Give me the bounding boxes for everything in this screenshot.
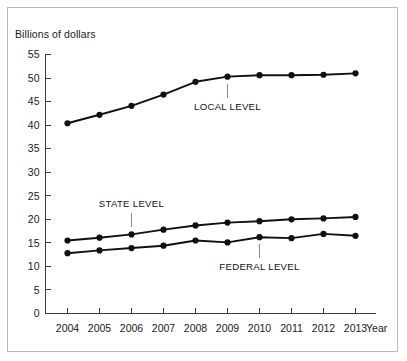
data-point (320, 72, 326, 78)
data-point (64, 237, 70, 243)
x-axis-name: Year (366, 322, 388, 334)
series-federal-level (64, 231, 358, 257)
series-label-federal-level: FEDERAL LEVEL (219, 261, 300, 272)
y-axis-tick-label: 15 (28, 237, 40, 249)
series-state-level (64, 214, 358, 244)
data-point (256, 72, 262, 78)
data-point (128, 103, 134, 109)
data-point (192, 237, 198, 243)
data-point (288, 235, 294, 241)
x-axis-tick-label: 2009 (216, 322, 240, 334)
x-axis-tick-label: 2005 (88, 322, 112, 334)
data-point (256, 234, 262, 240)
y-axis-tick-label: 30 (28, 166, 40, 178)
x-axis-tick-labels: 2004200520062007200820092010201120122013 (56, 322, 368, 334)
data-point (320, 215, 326, 221)
data-point (64, 120, 70, 126)
data-point (96, 247, 102, 253)
x-axis-tick-label: 2004 (56, 322, 80, 334)
y-axis-tick-labels: 0510152025303540455055 (28, 48, 40, 319)
y-axis-tick-label: 55 (28, 48, 40, 60)
data-point (224, 74, 230, 80)
data-point (352, 70, 358, 76)
data-point (96, 112, 102, 118)
data-point (256, 218, 262, 224)
line-chart-plot: 0510152025303540455055 20042005200620072… (0, 0, 407, 361)
x-axis-tick-label: 2007 (152, 322, 176, 334)
x-axis-tick-marks (68, 308, 356, 314)
series-label-state-level: STATE LEVEL (99, 198, 165, 209)
x-axis-tick-label: 2010 (248, 322, 272, 334)
data-point (288, 72, 294, 78)
x-axis-tick-label: 2013 (344, 322, 368, 334)
data-point (160, 91, 166, 97)
series-annotations: LOCAL LEVELSTATE LEVELFEDERAL LEVEL (99, 84, 300, 273)
y-axis-tick-label: 25 (28, 190, 40, 202)
data-point (288, 216, 294, 222)
x-axis-tick-label: 2006 (120, 322, 144, 334)
data-series-group (64, 70, 358, 256)
data-point (128, 245, 134, 251)
data-point (192, 222, 198, 228)
series-local-level (64, 70, 358, 126)
data-point (96, 235, 102, 241)
y-axis-tick-label: 45 (28, 95, 40, 107)
data-point (160, 227, 166, 233)
data-point (224, 220, 230, 226)
y-axis-tick-label: 50 (28, 72, 40, 84)
data-point (128, 231, 134, 237)
data-point (64, 250, 70, 256)
chart-figure: Billions of dollars 05101520253035404550… (0, 0, 407, 361)
data-point (320, 231, 326, 237)
x-axis-tick-label: 2011 (280, 322, 303, 334)
series-label-local-level: LOCAL LEVEL (194, 101, 261, 112)
data-point (352, 214, 358, 220)
y-axis-tick-label: 35 (28, 142, 40, 154)
data-point (224, 239, 230, 245)
y-axis-tick-marks (45, 55, 51, 314)
x-axis-tick-label: 2008 (184, 322, 208, 334)
x-axis-tick-label: 2012 (312, 322, 336, 334)
y-axis-tick-label: 0 (34, 307, 40, 319)
data-point (192, 79, 198, 85)
y-axis-tick-label: 5 (34, 284, 40, 296)
data-point (352, 233, 358, 239)
y-axis-tick-label: 10 (28, 260, 40, 272)
y-axis-tick-label: 20 (28, 213, 40, 225)
y-axis-tick-label: 40 (28, 119, 40, 131)
data-point (160, 243, 166, 249)
